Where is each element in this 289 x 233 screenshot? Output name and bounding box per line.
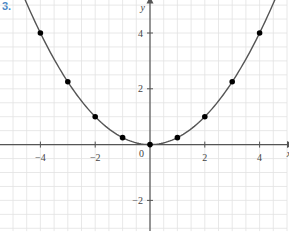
- data-point: [202, 114, 208, 120]
- labels: −4−22442−20xy: [35, 2, 289, 206]
- data-point: [65, 79, 71, 85]
- data-point: [92, 114, 98, 120]
- data-point: [229, 79, 235, 85]
- data-point: [175, 135, 181, 141]
- origin-label: 0: [139, 148, 144, 159]
- grid: [0, 0, 287, 231]
- x-tick-label: 2: [202, 152, 207, 163]
- x-tick-label: −4: [35, 152, 46, 163]
- data-point: [120, 135, 126, 141]
- y-tick-label: 2: [138, 83, 143, 94]
- y-tick-label: −2: [132, 195, 143, 206]
- y-axis-label: y: [140, 2, 146, 13]
- data-point: [38, 30, 44, 36]
- data-point: [257, 30, 263, 36]
- data-point: [147, 142, 153, 148]
- x-tick-label: −2: [90, 152, 101, 163]
- y-tick-label: 4: [138, 28, 143, 39]
- x-tick-label: 4: [257, 152, 262, 163]
- parabola-chart: −4−22442−20xy: [0, 0, 289, 233]
- x-axis-label: x: [286, 148, 289, 159]
